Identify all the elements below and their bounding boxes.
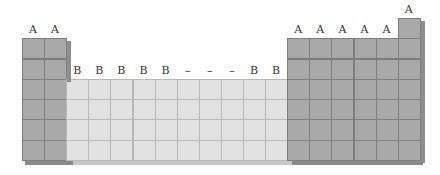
cell-b — [177, 79, 200, 100]
cell-a — [309, 140, 332, 161]
cell-b — [133, 140, 156, 161]
cell-a — [22, 119, 45, 140]
cell-a — [354, 140, 377, 161]
column-label: B — [155, 65, 177, 77]
cell-a — [331, 59, 354, 80]
cell-a — [398, 119, 421, 140]
column-label: A — [22, 24, 44, 36]
block-bottom-face — [25, 161, 423, 165]
cell-b — [221, 99, 244, 120]
cell-a — [398, 99, 421, 120]
cell-b — [110, 119, 133, 140]
cell-b — [221, 119, 244, 140]
column-label: B — [88, 65, 110, 77]
column-label: A — [354, 24, 376, 36]
cell-a — [398, 140, 421, 161]
cell-a — [376, 79, 399, 100]
cell-b — [66, 99, 89, 120]
cell-a — [44, 38, 67, 59]
column-label: – — [177, 65, 199, 77]
cell-b — [110, 79, 133, 100]
cell-b — [243, 99, 266, 120]
cell-b — [221, 140, 244, 161]
cell-b — [265, 99, 288, 120]
cell-a — [376, 38, 399, 59]
cell-b — [199, 79, 222, 100]
cell-b — [265, 79, 288, 100]
cell-a — [354, 99, 377, 120]
cell-a — [287, 79, 310, 100]
cell-b — [66, 119, 89, 140]
cell-b — [265, 140, 288, 161]
cell-a — [44, 140, 67, 161]
cell-b — [88, 99, 111, 120]
cell-b — [110, 140, 133, 161]
cell-a — [309, 59, 332, 80]
cell-a — [22, 99, 45, 120]
column-label: A — [287, 24, 309, 36]
cell-a — [44, 59, 67, 80]
block-side-face — [67, 41, 71, 82]
cell-a — [398, 18, 421, 39]
cell-b — [110, 99, 133, 120]
cell-a — [309, 79, 332, 100]
cell-a — [354, 59, 377, 80]
cell-b — [88, 79, 111, 100]
cell-b — [199, 140, 222, 161]
cell-a — [376, 59, 399, 80]
cell-a — [376, 119, 399, 140]
column-label: B — [133, 65, 155, 77]
cell-a — [287, 38, 310, 59]
cell-a — [44, 119, 67, 140]
cell-a — [309, 99, 332, 120]
periodic-table-block-diagram: AABBBBB–––BBAAAAAA — [0, 0, 440, 175]
cell-a — [398, 59, 421, 80]
column-label: A — [44, 24, 66, 36]
cell-b — [265, 119, 288, 140]
cell-a — [331, 99, 354, 120]
cell-a — [331, 38, 354, 59]
cell-b — [199, 119, 222, 140]
column-label: A — [331, 24, 353, 36]
cell-b — [155, 79, 178, 100]
column-label: B — [243, 65, 265, 77]
cell-b — [221, 79, 244, 100]
cell-a — [287, 119, 310, 140]
column-label: A — [398, 4, 420, 16]
cell-a — [331, 119, 354, 140]
cell-b — [243, 79, 266, 100]
cell-a — [398, 38, 421, 59]
cell-a — [331, 140, 354, 161]
cell-b — [133, 79, 156, 100]
column-label: B — [265, 65, 287, 77]
cell-a — [22, 38, 45, 59]
column-label: B — [110, 65, 132, 77]
column-label: A — [376, 24, 398, 36]
cell-a — [376, 99, 399, 120]
cell-b — [88, 119, 111, 140]
column-label: – — [221, 65, 243, 77]
cell-a — [22, 59, 45, 80]
cell-b — [177, 99, 200, 120]
cell-b — [243, 119, 266, 140]
cell-a — [398, 79, 421, 100]
cell-b — [155, 140, 178, 161]
cell-a — [376, 140, 399, 161]
cell-a — [354, 79, 377, 100]
cell-b — [88, 140, 111, 161]
cell-b — [133, 99, 156, 120]
cell-b — [133, 119, 156, 140]
cell-a — [331, 79, 354, 100]
cell-a — [354, 119, 377, 140]
cell-a — [287, 140, 310, 161]
cell-a — [287, 59, 310, 80]
cell-a — [44, 79, 67, 100]
cell-b — [199, 99, 222, 120]
cell-b — [66, 79, 89, 100]
column-label: – — [199, 65, 221, 77]
cell-b — [66, 140, 89, 161]
block-side-face — [421, 21, 425, 163]
cell-b — [155, 119, 178, 140]
cell-a — [44, 99, 67, 120]
cell-a — [309, 119, 332, 140]
